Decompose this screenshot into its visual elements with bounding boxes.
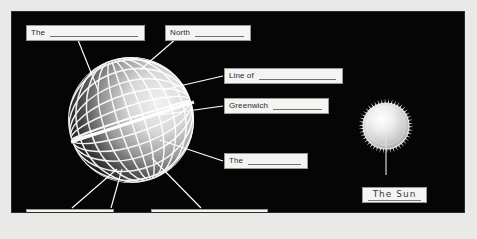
label-text-top-left: The	[31, 29, 45, 37]
answer-blank-line-of-upper[interactable]	[259, 73, 336, 80]
label-box-top-left[interactable]: The	[26, 25, 145, 41]
globe	[52, 41, 211, 200]
sun	[359, 99, 414, 175]
label-text-the-sun: The Sun	[368, 190, 422, 201]
label-box-the-sun[interactable]: The Sun	[362, 187, 427, 203]
label-text-the-middle: The	[229, 157, 243, 165]
label-text-north: North	[170, 29, 190, 37]
answer-blank-the-middle[interactable]	[248, 158, 301, 165]
label-box-the-middle[interactable]: The	[224, 153, 308, 169]
label-box-greenwich[interactable]: Greenwich	[224, 98, 329, 114]
label-text-line-of-upper: Line of	[229, 72, 254, 80]
figure-panel: TheNorthLine ofGreenwichTheSouthLine ofT…	[11, 11, 465, 213]
label-box-line-of-lower[interactable]: Line of	[151, 209, 268, 213]
label-box-south[interactable]: South	[26, 209, 114, 213]
answer-blank-greenwich[interactable]	[273, 103, 322, 110]
label-box-north[interactable]: North	[165, 25, 251, 41]
answer-blank-north[interactable]	[195, 30, 244, 37]
answer-blank-top-left[interactable]	[50, 30, 138, 37]
label-box-line-of-upper[interactable]: Line of	[224, 68, 343, 84]
label-text-greenwich: Greenwich	[229, 102, 268, 110]
figure-page: TheNorthLine ofGreenwichTheSouthLine ofT…	[0, 0, 477, 239]
